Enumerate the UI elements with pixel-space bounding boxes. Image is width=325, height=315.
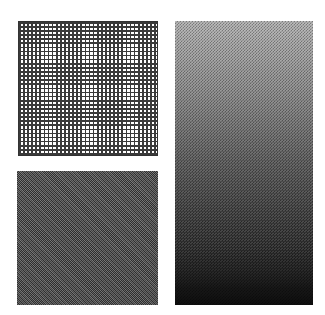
checkerboard-dither-panel <box>17 171 158 305</box>
grid-pattern-panel <box>18 21 158 156</box>
vertical-gradient-dither-panel <box>175 21 313 305</box>
